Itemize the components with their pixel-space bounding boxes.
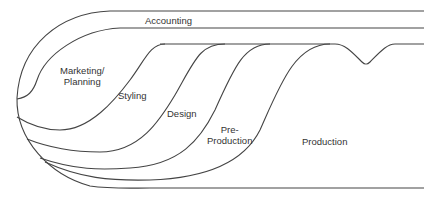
label-preproduction-line2: Production	[207, 135, 252, 146]
label-styling: Styling	[118, 90, 147, 101]
label-production: Production	[302, 136, 347, 147]
label-design: Design	[167, 108, 197, 119]
label-marketing-line1: Marketing/	[60, 65, 104, 76]
label-pre-production: Pre- Production	[207, 124, 252, 146]
stage-diagram	[0, 0, 438, 197]
marketing-styling-boundary	[17, 44, 165, 130]
label-accounting: Accounting	[145, 15, 192, 26]
outer-boundary-line	[17, 11, 424, 188]
label-marketing-line2: Planning	[60, 76, 104, 87]
label-preproduction-line1: Pre-	[207, 124, 252, 135]
label-marketing-planning: Marketing/ Planning	[60, 65, 104, 87]
